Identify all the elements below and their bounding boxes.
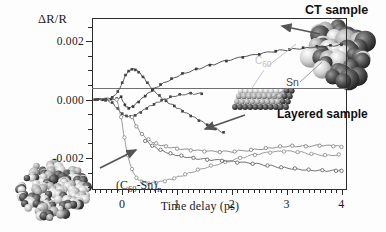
data-point	[123, 136, 126, 139]
data-point	[220, 159, 223, 162]
data-point	[153, 103, 156, 106]
data-point	[214, 128, 217, 131]
data-point	[280, 166, 283, 169]
x-tick-label: 0	[119, 197, 125, 212]
data-point	[121, 81, 124, 84]
data-point	[164, 145, 167, 148]
data-point	[181, 72, 184, 75]
data-point	[178, 93, 181, 96]
data-point	[130, 167, 133, 170]
data-point	[340, 44, 343, 47]
data-curves	[92, 18, 347, 190]
x-tick-label: 4	[338, 197, 344, 212]
data-point	[146, 107, 149, 110]
data-point	[209, 164, 212, 167]
data-point	[304, 145, 307, 148]
data-point	[158, 94, 161, 97]
c60sn-sub-60: 60	[128, 184, 137, 194]
data-point	[184, 173, 187, 176]
data-point	[323, 153, 326, 156]
data-point	[274, 50, 277, 53]
data-point	[159, 148, 162, 151]
c60sn-sub-n: n	[157, 184, 161, 194]
data-point	[233, 150, 236, 153]
data-point	[160, 99, 163, 102]
atom-sphere	[24, 175, 30, 181]
data-point	[134, 69, 137, 72]
x-tick-label: 3	[284, 197, 290, 212]
data-point	[169, 152, 172, 155]
data-point	[238, 156, 241, 159]
data-point	[321, 169, 324, 172]
data-point	[126, 153, 129, 156]
curve-layered-sample-upper	[132, 117, 342, 153]
data-point	[192, 156, 195, 159]
data-point	[264, 146, 267, 149]
data-point	[131, 68, 134, 71]
label-sn: Sn	[286, 76, 299, 88]
data-point	[130, 115, 133, 118]
data-point	[104, 99, 107, 102]
data-point	[180, 154, 183, 157]
atom-sphere	[56, 210, 65, 219]
data-point	[111, 101, 114, 104]
data-point	[151, 144, 154, 147]
data-point	[165, 100, 168, 103]
data-point	[222, 131, 225, 134]
data-point	[291, 144, 294, 147]
data-point	[146, 81, 149, 84]
data-point	[173, 177, 176, 180]
data-point	[175, 147, 178, 150]
data-point	[334, 169, 337, 172]
data-point	[206, 123, 209, 126]
data-point	[137, 71, 140, 74]
data-point	[144, 139, 147, 142]
curve-ct-sample	[95, 44, 342, 109]
data-point	[159, 83, 162, 86]
atom-sphere	[24, 204, 32, 212]
label-c60-subscript: 60	[262, 59, 271, 69]
data-point	[140, 111, 143, 114]
data-point	[302, 46, 305, 49]
data-point	[117, 90, 120, 93]
data-point	[337, 153, 340, 156]
data-point	[142, 76, 145, 79]
c60sn-prefix: (C	[116, 178, 128, 192]
data-point	[225, 60, 228, 63]
data-point	[203, 150, 206, 153]
data-point	[96, 98, 99, 101]
data-point	[196, 168, 199, 171]
y-tick-label: 0.002	[57, 35, 84, 47]
data-point	[253, 153, 256, 156]
y-axis-title: ΔR/R	[38, 12, 67, 27]
data-point	[140, 132, 143, 135]
data-point	[249, 148, 252, 151]
data-point	[316, 45, 319, 48]
label-c60: C60	[255, 55, 272, 69]
data-point	[278, 145, 281, 148]
data-point	[307, 168, 310, 171]
data-point	[236, 161, 239, 164]
data-point	[181, 110, 184, 113]
data-point	[209, 64, 212, 67]
data-point	[198, 119, 201, 122]
data-point	[127, 70, 130, 73]
data-point	[170, 77, 173, 80]
data-point	[340, 169, 343, 172]
data-point	[189, 115, 192, 118]
data-point	[329, 44, 332, 47]
data-point	[293, 167, 296, 170]
data-point	[115, 98, 118, 101]
data-point	[269, 151, 272, 154]
data-point	[288, 48, 291, 51]
data-point	[137, 101, 140, 104]
data-point	[163, 180, 166, 183]
data-point	[242, 56, 245, 59]
data-point	[124, 104, 127, 107]
data-point	[195, 68, 198, 71]
data-point	[111, 96, 114, 99]
data-point	[266, 164, 269, 167]
data-point	[251, 162, 254, 165]
data-point	[135, 125, 138, 128]
data-point	[155, 142, 158, 145]
